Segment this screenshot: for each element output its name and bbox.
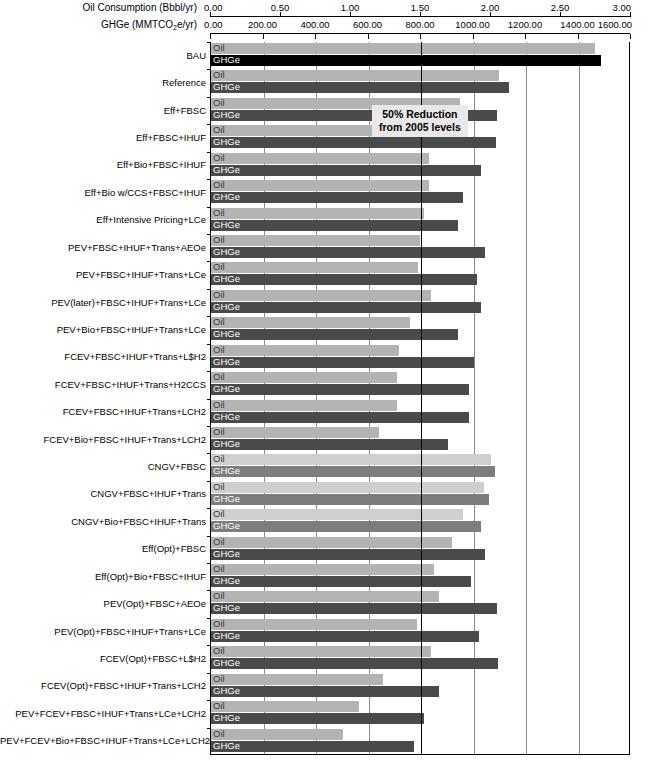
category-label: CNGV+FBSC bbox=[0, 461, 206, 472]
axis-tick-mark bbox=[630, 12, 631, 17]
ghge-bar-label: GHGe bbox=[213, 740, 240, 752]
category-labels: BAUReferenceEff+FBSCEff+FBSC+IHUFEff+Bio… bbox=[0, 42, 206, 755]
axis-tick-label: 1200.00 bbox=[508, 19, 542, 31]
ghge-bar: GHGe bbox=[211, 137, 496, 148]
axis-tick-mark bbox=[473, 34, 474, 39]
ghge-bar-label: GHGe bbox=[213, 164, 240, 176]
oil-bar: Oil bbox=[211, 372, 397, 383]
axis-tick-mark bbox=[420, 34, 421, 39]
oil-bar: Oil bbox=[211, 454, 491, 465]
oil-bar-label: Oil bbox=[213, 426, 225, 438]
ghge-bar-label: GHGe bbox=[213, 465, 240, 477]
oil-bar-label: Oil bbox=[213, 152, 225, 164]
category-label: BAU bbox=[0, 50, 206, 61]
ghge-bar: GHGe bbox=[211, 384, 469, 395]
oil-bar-label: Oil bbox=[213, 207, 225, 219]
ghge-bar-label: GHGe bbox=[213, 685, 240, 697]
axis-tick-mark bbox=[368, 34, 369, 39]
oil-bar-label: Oil bbox=[213, 645, 225, 657]
oil-bar-label: Oil bbox=[213, 481, 225, 493]
oil-bar-label: Oil bbox=[213, 179, 225, 191]
ghge-bar-label: GHGe bbox=[213, 712, 240, 724]
oil-bar-label: Oil bbox=[213, 289, 225, 301]
oil-bar: Oil bbox=[211, 701, 359, 712]
ghge-bar: GHGe bbox=[211, 686, 439, 697]
axis-tick-label: 0.00 bbox=[204, 2, 223, 14]
ghge-bar-label: GHGe bbox=[213, 301, 240, 313]
ghge-axis-title-suffix: e/yr) bbox=[177, 19, 197, 30]
category-label: FCEV+FBSC+IHUF+Trans+LCH2 bbox=[0, 406, 206, 417]
ghge-bar-label: GHGe bbox=[213, 575, 240, 587]
category-label: Eff+Intensive Pricing+LCe bbox=[0, 214, 206, 225]
oil-bar: Oil bbox=[211, 509, 463, 520]
oil-bar-label: Oil bbox=[213, 453, 225, 465]
ghge-bar: GHGe bbox=[211, 55, 601, 66]
ghge-bar: GHGe bbox=[211, 741, 414, 752]
oil-bar-label: Oil bbox=[213, 536, 225, 548]
oil-bar-label: Oil bbox=[213, 42, 225, 54]
ghge-bar-label: GHGe bbox=[213, 602, 240, 614]
ghge-bar-label: GHGe bbox=[213, 273, 240, 285]
ghge-bar: GHGe bbox=[211, 521, 481, 532]
axis-tick-label: 1400.00 bbox=[560, 19, 594, 31]
oil-bar: Oil bbox=[211, 427, 379, 438]
category-label: FCEV+Bio+FBSC+IHUF+Trans+LCH2 bbox=[0, 434, 206, 445]
oil-bar-label: Oil bbox=[213, 261, 225, 273]
axis-tick-label: 600.00 bbox=[353, 19, 382, 31]
oil-bar-label: Oil bbox=[213, 618, 225, 630]
target-annotation: 50% Reduction from 2005 levels bbox=[372, 105, 468, 137]
axis-tick-mark bbox=[560, 12, 561, 17]
ghge-bar-label: GHGe bbox=[213, 630, 240, 642]
ghge-bar: GHGe bbox=[211, 192, 463, 203]
oil-bar-label: Oil bbox=[213, 563, 225, 575]
oil-bar: Oil bbox=[211, 537, 452, 548]
oil-bar: Oil bbox=[211, 619, 417, 630]
ghge-bar: GHGe bbox=[211, 576, 471, 587]
oil-axis-line bbox=[210, 16, 630, 17]
axis-tick-label: 200.00 bbox=[248, 19, 277, 31]
axis-tick-mark bbox=[280, 12, 281, 17]
ghge-axis-line bbox=[210, 33, 630, 34]
ghge-bar: GHGe bbox=[211, 302, 481, 313]
category-label: CNGV+Bio+FBSC+IHUF+Trans bbox=[0, 516, 206, 527]
category-label: PEV+FBSC+IHUF+Trans+LCe bbox=[0, 269, 206, 280]
ghge-bar-label: GHGe bbox=[213, 54, 240, 66]
category-label: Eff+FBSC+IHUF bbox=[0, 132, 206, 143]
oil-bar: Oil bbox=[211, 482, 484, 493]
category-label: Eff+FBSC bbox=[0, 105, 206, 116]
ghge-bar-label: GHGe bbox=[213, 548, 240, 560]
ghge-bar-label: GHGe bbox=[213, 383, 240, 395]
axis-tick-label: 3.00 bbox=[613, 2, 632, 14]
axis-tick-label: 800.00 bbox=[405, 19, 434, 31]
axis-tick-mark bbox=[490, 12, 491, 17]
category-label: PEV+FCEV+Bio+FBSC+IHUF+Trans+LCe+LCH2 bbox=[0, 735, 206, 746]
ghge-bar: GHGe bbox=[211, 357, 474, 368]
axis-tick-mark bbox=[420, 12, 421, 17]
ghge-bar-label: GHGe bbox=[213, 411, 240, 423]
plot-area: OilGHGeOilGHGeOilGHGeOilGHGeOilGHGeOilGH… bbox=[210, 42, 630, 755]
oil-bar-label: Oil bbox=[213, 344, 225, 356]
category-label: PEV+Bio+FBSC+IHUF+Trans+LCe bbox=[0, 324, 206, 335]
axis-tick-mark bbox=[263, 34, 264, 39]
oil-bar: Oil bbox=[211, 262, 418, 273]
oil-bar: Oil bbox=[211, 235, 420, 246]
category-label: FCEV+FBSC+IHUF+Trans+H2CCS bbox=[0, 379, 206, 390]
axis-tick-label: 1600.00 bbox=[598, 19, 632, 31]
category-label: Eff(Opt)+Bio+FBSC+IHUF bbox=[0, 571, 206, 582]
ghge-bar-label: GHGe bbox=[213, 191, 240, 203]
oil-bar: Oil bbox=[211, 290, 431, 301]
oil-bar-label: Oil bbox=[213, 399, 225, 411]
oil-bar: Oil bbox=[211, 591, 439, 602]
category-label: Reference bbox=[0, 77, 206, 88]
ghge-bar-label: GHGe bbox=[213, 438, 240, 450]
oil-bar: Oil bbox=[211, 43, 595, 54]
ghge-bar: GHGe bbox=[211, 603, 497, 614]
ghge-bar: GHGe bbox=[211, 494, 489, 505]
oil-bar: Oil bbox=[211, 153, 429, 164]
oil-bar-label: Oil bbox=[213, 673, 225, 685]
ghge-bar: GHGe bbox=[211, 439, 448, 450]
ghge-bar-label: GHGe bbox=[213, 136, 240, 148]
ghge-bar: GHGe bbox=[211, 631, 479, 642]
axis-tick-label: 1000.00 bbox=[455, 19, 489, 31]
chart-root: Oil Consumption (Bbbl/yr) 0.000.501.001.… bbox=[0, 0, 655, 772]
